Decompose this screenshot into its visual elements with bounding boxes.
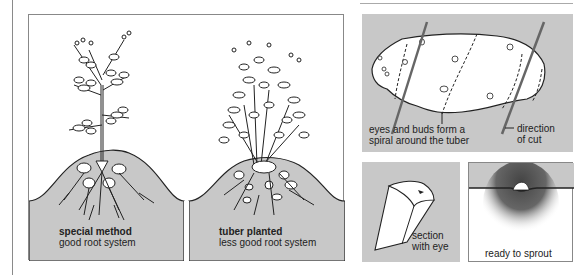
section-label-line2: with eye	[412, 241, 449, 252]
tuber-planted-subtitle: less good root system	[219, 237, 316, 248]
tuber-shape-icon	[372, 34, 545, 113]
spiral-annotation-line2: spiral around the tuber	[369, 135, 469, 146]
direction-annotation-line2: of cut	[517, 134, 555, 145]
planting-comparison-illustration	[29, 15, 345, 261]
tuber-spiral-panel: eyes and buds form a spiral around the t…	[362, 14, 573, 152]
tuber-planted-label: tuber planted less good root system	[219, 226, 316, 248]
direction-annotation-line1: direction	[517, 123, 555, 134]
left-frame-line	[12, 0, 13, 275]
special-method-subtitle: good root system	[59, 237, 136, 248]
ready-to-sprout-panel: ready to sprout	[468, 162, 573, 262]
section-label-line1: section	[412, 230, 449, 241]
direction-annotation: direction of cut	[517, 123, 555, 145]
planting-comparison-panel: special method good root system tuber pl…	[28, 14, 344, 260]
top-frame-line	[360, 3, 573, 4]
special-method-title: special method	[59, 226, 136, 237]
spiral-annotation: eyes and buds form a spiral around the t…	[369, 124, 469, 146]
spiral-annotation-line1: eyes and buds form a	[369, 124, 469, 135]
section-label: section with eye	[412, 230, 449, 252]
special-method-label: special method good root system	[59, 226, 136, 248]
tuber-planted-title: tuber planted	[219, 226, 316, 237]
section-with-eye-panel: section with eye	[362, 162, 460, 262]
sprout-label: ready to sprout	[485, 248, 552, 259]
